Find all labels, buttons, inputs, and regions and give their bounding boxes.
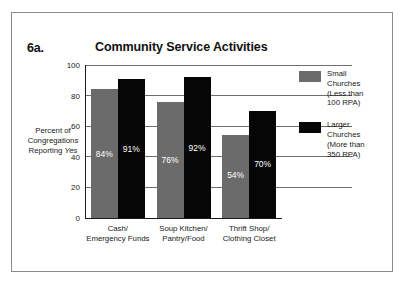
y-tick-label-40: 40 xyxy=(71,152,80,161)
bar-value-label: 91% xyxy=(118,144,145,154)
legend-label-line-2: Churches xyxy=(327,130,391,140)
legend-label-line-3: (Less than xyxy=(327,89,391,99)
y-axis-title-line-3-text: Reporting xyxy=(29,146,65,155)
bar-value-label: 70% xyxy=(249,159,276,169)
bar-small-churches-1[interactable]: 84% xyxy=(91,89,118,218)
bar-small-churches-2[interactable]: 76% xyxy=(157,102,184,218)
bar-small-churches-3[interactable]: 54% xyxy=(222,135,249,218)
figure-number: 6a. xyxy=(27,41,44,55)
chart-title: Community Service Activities xyxy=(95,40,268,54)
bar-larger-churches-2[interactable]: 92% xyxy=(184,77,211,218)
chart-legend: SmallChurches(Less than100 RPA)LargerChu… xyxy=(299,69,391,171)
y-tick-label-80: 80 xyxy=(71,91,80,100)
legend-swatch xyxy=(299,71,321,82)
legend-label: SmallChurches(Less than100 RPA) xyxy=(327,69,391,108)
bar-larger-churches-1[interactable]: 91% xyxy=(118,79,145,218)
bar-value-label: 76% xyxy=(157,155,184,165)
bar-value-label: 92% xyxy=(184,143,211,153)
legend-label-line-1: Small xyxy=(327,69,391,79)
gridline-100 xyxy=(85,65,352,66)
legend-label-line-4: 350 RPA) xyxy=(327,150,391,160)
y-tick-label-0: 0 xyxy=(76,214,80,223)
x-category-label-3: Thrift Shop/Clothing Closet xyxy=(208,224,290,243)
legend-label: LargerChurches(More than350 RPA) xyxy=(327,120,391,159)
x-category-label-line-1: Thrift Shop/ xyxy=(208,224,290,234)
legend-label-line-1: Larger xyxy=(327,120,391,130)
bar-larger-churches-3[interactable]: 70% xyxy=(249,111,276,218)
legend-label-line-4: 100 RPA) xyxy=(327,98,391,108)
y-tick-label-20: 20 xyxy=(71,183,80,192)
plot-area: 020406080100 84%91%76%92%54%70% Cash/Eme… xyxy=(85,65,282,218)
legend-entry-small-churches[interactable]: SmallChurches(Less than100 RPA) xyxy=(299,69,391,108)
x-category-label-line-2: Clothing Closet xyxy=(208,234,290,244)
legend-swatch xyxy=(299,122,321,133)
y-axis-title-line-2: Congregations xyxy=(22,136,84,146)
legend-label-line-3: (More than xyxy=(327,140,391,150)
bar-value-label: 54% xyxy=(222,170,249,180)
legend-label-line-2: Churches xyxy=(327,79,391,89)
legend-entry-larger-churches[interactable]: LargerChurches(More than350 RPA) xyxy=(299,120,391,159)
y-axis-line xyxy=(85,65,86,218)
bar-value-label: 84% xyxy=(91,149,118,159)
y-tick-label-100: 100 xyxy=(67,61,80,70)
y-tick-label-60: 60 xyxy=(71,122,80,131)
figure-frame: 6a. Community Service Activities Percent… xyxy=(11,12,393,272)
